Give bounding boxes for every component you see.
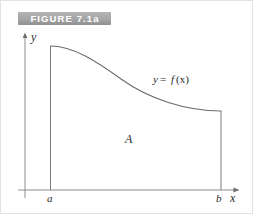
y-axis-label: y xyxy=(30,30,37,44)
area-region-fill xyxy=(51,46,222,190)
y-axis-arrow-icon xyxy=(23,33,28,39)
figure-plot: y x a b A y = f (x) xyxy=(1,1,253,214)
function-label-argument: (x) xyxy=(176,73,189,86)
area-label: A xyxy=(124,132,133,146)
figure-container: FIGURE 7.1a y x a b A y = f (x) xyxy=(0,0,253,214)
function-label-equals: = xyxy=(160,73,166,85)
x-axis-label: x xyxy=(229,191,236,205)
lower-limit-label: a xyxy=(47,192,53,204)
function-label-y: y xyxy=(152,73,158,85)
upper-limit-label: b xyxy=(216,192,222,204)
function-curve-label: y = f (x) xyxy=(152,73,189,86)
